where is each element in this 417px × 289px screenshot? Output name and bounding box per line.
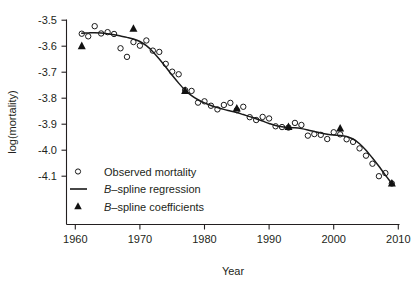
legend-label-observed: Observed mortality bbox=[104, 166, 197, 178]
chart-figure: -3.5 -3.6 -3.7 -3.8 -3.9 -4.0 -4.1 1960 … bbox=[0, 0, 417, 289]
legend-marker-filled-triangle bbox=[74, 202, 82, 209]
observed-mortality-point bbox=[363, 153, 368, 158]
x-tick-label: 2010 bbox=[386, 233, 410, 245]
y-tick-label: -4.0 bbox=[38, 144, 57, 156]
observed-mortality-point bbox=[176, 72, 181, 77]
observed-mortality-point bbox=[350, 139, 355, 144]
spline-coefficient-marker bbox=[78, 42, 86, 50]
x-tick-label: 1960 bbox=[63, 233, 87, 245]
observed-mortality-point bbox=[357, 146, 362, 151]
observed-mortality-point bbox=[325, 136, 330, 141]
y-axis-title: log(mortality) bbox=[6, 90, 18, 154]
observed-mortality-point bbox=[221, 102, 226, 107]
observed-mortality-point bbox=[92, 23, 97, 28]
legend-label-regression: B–spline regression bbox=[104, 183, 201, 195]
observed-mortality-point bbox=[260, 114, 265, 119]
y-tick-label: -3.7 bbox=[38, 66, 57, 78]
observed-mortality-point bbox=[189, 88, 194, 93]
x-tick-label: 2000 bbox=[321, 233, 345, 245]
spline-coefficient-marker bbox=[129, 24, 137, 32]
observed-mortality-point bbox=[344, 137, 349, 142]
x-axis-ticks bbox=[75, 225, 398, 230]
chart-legend: Observed mortality B–spline regression B… bbox=[70, 166, 205, 213]
observed-mortality-point bbox=[370, 161, 375, 166]
observed-mortality-point bbox=[118, 46, 123, 51]
legend-label-regression-rest: –spline regression bbox=[111, 183, 200, 195]
legend-label-coefficients: B–spline coefficients bbox=[104, 201, 205, 213]
observed-mortality-point bbox=[195, 100, 200, 105]
spline-coefficient-marker bbox=[336, 124, 344, 132]
x-tick-label: 1970 bbox=[128, 233, 152, 245]
observed-mortality-point bbox=[337, 132, 342, 137]
observed-mortality-point bbox=[86, 34, 91, 39]
y-tick-label: -4.1 bbox=[38, 170, 57, 182]
observed-mortality-point bbox=[292, 120, 297, 125]
observed-mortality-point bbox=[305, 133, 310, 138]
y-axis-ticks bbox=[62, 20, 67, 176]
legend-label-regression-prefix: B bbox=[104, 183, 111, 195]
y-tick-label: -3.8 bbox=[38, 92, 57, 104]
observed-mortality-point bbox=[266, 116, 271, 121]
x-axis-title: Year bbox=[222, 265, 245, 277]
chart-canvas: -3.5 -3.6 -3.7 -3.8 -3.9 -4.0 -4.1 1960 … bbox=[0, 0, 417, 289]
observed-mortality-point bbox=[131, 39, 136, 44]
observed-mortality-point bbox=[170, 69, 175, 74]
observed-mortality-point bbox=[124, 54, 129, 59]
x-axis-tick-labels: 1960 1970 1980 1990 2000 2010 bbox=[63, 233, 410, 245]
observed-mortality-point bbox=[157, 49, 162, 54]
observed-mortality-point bbox=[299, 122, 304, 127]
x-tick-label: 1990 bbox=[257, 233, 281, 245]
y-tick-label: -3.9 bbox=[38, 118, 57, 130]
observed-mortality-point bbox=[137, 43, 142, 48]
x-tick-label: 1980 bbox=[192, 233, 216, 245]
observed-mortality-point bbox=[241, 104, 246, 109]
y-tick-label: -3.5 bbox=[38, 14, 57, 26]
y-tick-label: -3.6 bbox=[38, 40, 57, 52]
observed-mortality-point bbox=[331, 130, 336, 135]
legend-label-coefficients-rest: –spline coefficients bbox=[111, 201, 204, 213]
observed-mortality-point bbox=[144, 38, 149, 43]
observed-mortality-point bbox=[228, 100, 233, 105]
observed-mortality-point bbox=[376, 174, 381, 179]
legend-marker-open-circle bbox=[75, 169, 80, 174]
y-axis-tick-labels: -3.5 -3.6 -3.7 -3.8 -3.9 -4.0 -4.1 bbox=[38, 14, 57, 182]
spline-coefficient-markers bbox=[78, 24, 396, 186]
legend-label-coefficients-prefix: B bbox=[104, 201, 111, 213]
spline-coefficient-marker bbox=[233, 104, 241, 112]
